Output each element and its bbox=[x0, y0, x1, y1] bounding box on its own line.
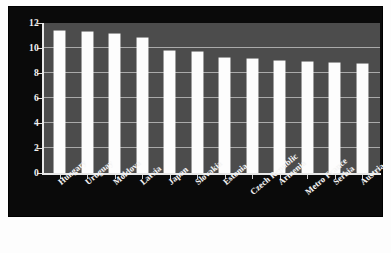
y-axis-labels: 024681012 bbox=[17, 23, 39, 174]
y-tick-label: 4 bbox=[19, 118, 39, 128]
bars-layer bbox=[42, 23, 380, 173]
y-tick-label: 0 bbox=[19, 168, 39, 178]
bar-slot bbox=[46, 23, 74, 173]
y-tick-label: 6 bbox=[19, 93, 39, 103]
bar-slot bbox=[321, 23, 349, 173]
bar-slot bbox=[101, 23, 129, 173]
bar[interactable] bbox=[109, 34, 120, 173]
bar[interactable] bbox=[247, 59, 258, 173]
chart-panel: 024681012 HungaryUruguayMoldovaLatviaJap… bbox=[8, 6, 383, 217]
plot-area bbox=[42, 23, 380, 173]
y-tick-label: 8 bbox=[19, 68, 39, 78]
y-tick-label: 12 bbox=[19, 18, 39, 28]
y-axis-line bbox=[42, 23, 44, 174]
bar[interactable] bbox=[274, 61, 285, 174]
bar-slot bbox=[239, 23, 267, 173]
bar-slot bbox=[211, 23, 239, 173]
bar[interactable] bbox=[329, 63, 340, 173]
bar-slot bbox=[156, 23, 184, 173]
y-tick-label: 10 bbox=[19, 43, 39, 53]
x-axis-labels: HungaryUruguayMoldovaLatviaJapanSlovakia… bbox=[42, 177, 380, 221]
chart-figure: 024681012 HungaryUruguayMoldovaLatviaJap… bbox=[0, 0, 391, 253]
bar[interactable] bbox=[219, 58, 230, 173]
bar[interactable] bbox=[192, 52, 203, 173]
bar[interactable] bbox=[82, 32, 93, 173]
bar[interactable] bbox=[54, 31, 65, 174]
bar-slot bbox=[349, 23, 377, 173]
bar-slot bbox=[129, 23, 157, 173]
bar[interactable] bbox=[357, 64, 368, 173]
bar-slot bbox=[74, 23, 102, 173]
y-tick-label: 2 bbox=[19, 143, 39, 153]
bar-slot bbox=[184, 23, 212, 173]
bar-slot bbox=[266, 23, 294, 173]
bar[interactable] bbox=[164, 51, 175, 174]
bar-slot bbox=[294, 23, 322, 173]
bar[interactable] bbox=[137, 38, 148, 173]
bar[interactable] bbox=[302, 62, 313, 173]
